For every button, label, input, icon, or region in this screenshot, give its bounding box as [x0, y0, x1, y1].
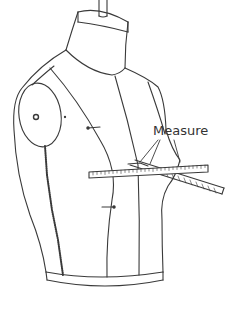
label-leader-lines: [140, 140, 180, 164]
side-zipper-seam: [45, 146, 63, 275]
measure-label: Measure: [153, 124, 208, 137]
stand-pole: [99, 0, 107, 17]
measuring-tape-horizontal: [89, 165, 208, 178]
dress-form-illustration: Measure: [0, 0, 233, 310]
shoulder-cap: [15, 66, 66, 150]
dress-form-drawing: [0, 0, 233, 310]
measuring-tape-diagonal: [128, 160, 224, 194]
neck-cap: [66, 10, 128, 75]
